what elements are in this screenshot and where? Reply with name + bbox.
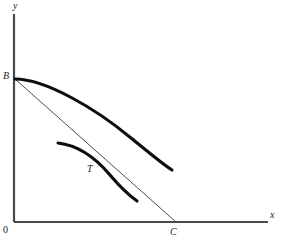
- point-label-b: B: [3, 71, 9, 81]
- x-axis-label: x: [270, 210, 274, 220]
- diagram-canvas: [0, 0, 283, 245]
- y-axis-label: y: [13, 1, 17, 11]
- origin-label: 0: [3, 225, 8, 235]
- production-possibility-frontier-curve: [15, 79, 172, 170]
- point-label-t: T: [87, 164, 93, 174]
- point-label-c: C: [170, 227, 177, 237]
- economics-diagram-figure: y x B C T 0: [0, 0, 283, 245]
- budget-line: [15, 79, 176, 222]
